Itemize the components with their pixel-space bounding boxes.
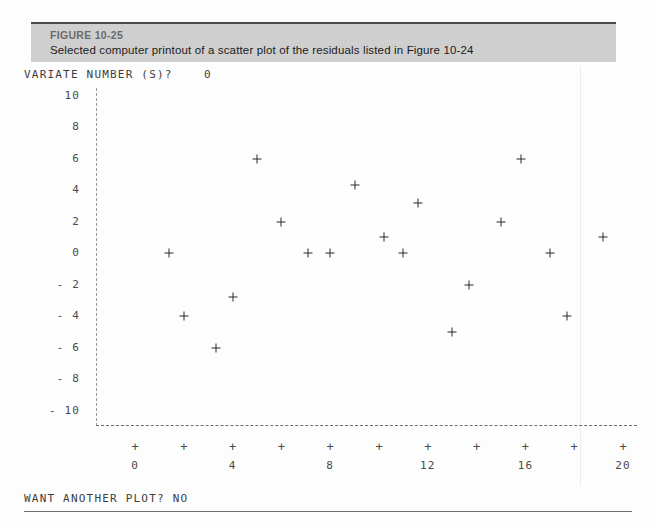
x-axis-tick-label: 16 bbox=[518, 459, 533, 472]
y-axis-tick-label: - 2 bbox=[22, 278, 80, 291]
x-axis-tick-mark: + bbox=[571, 440, 578, 454]
scatter-point bbox=[277, 217, 286, 226]
want-another-plot-prompt: WANT ANOTHER PLOT? NO bbox=[24, 492, 188, 505]
footer-divider bbox=[24, 511, 632, 512]
scatter-point bbox=[399, 249, 408, 258]
y-axis-tick-label: 0 bbox=[22, 246, 80, 259]
y-axis-tick-label: - 8 bbox=[22, 372, 80, 385]
scatter-point bbox=[448, 327, 457, 336]
x-axis-tick-mark: + bbox=[229, 440, 236, 454]
y-axis-tick-label: - 6 bbox=[22, 341, 80, 354]
y-axis-tick-label: 4 bbox=[22, 183, 80, 196]
scatter-point bbox=[414, 198, 423, 207]
x-axis-tick-label: 4 bbox=[229, 459, 237, 472]
x-axis-tick-mark: + bbox=[327, 440, 334, 454]
x-axis-tick-mark: + bbox=[522, 440, 529, 454]
scatter-point bbox=[326, 249, 335, 258]
y-axis-tick-label: 2 bbox=[22, 215, 80, 228]
scatter-plot: 1086420- 2- 4- 6- 8- 10 +++++++++++ 0481… bbox=[0, 0, 656, 526]
x-axis-tick-mark: + bbox=[278, 440, 285, 454]
scatter-point bbox=[165, 249, 174, 258]
y-axis-tick-label: - 10 bbox=[22, 404, 80, 417]
x-axis-tick-label: 12 bbox=[420, 459, 435, 472]
x-axis-tick-mark: + bbox=[473, 440, 480, 454]
scatter-point bbox=[379, 233, 388, 242]
x-axis-tick-mark: + bbox=[180, 440, 187, 454]
x-axis-tick-mark: + bbox=[375, 440, 382, 454]
scatter-point bbox=[211, 343, 220, 352]
y-axis-tick-label: 6 bbox=[22, 152, 80, 165]
x-axis-tick-label: 8 bbox=[326, 459, 334, 472]
y-axis-dashed-line bbox=[96, 88, 97, 426]
x-axis-tick-label: 0 bbox=[131, 459, 139, 472]
x-axis-tick-label: 20 bbox=[615, 459, 630, 472]
x-axis-tick-mark: + bbox=[131, 440, 138, 454]
y-axis-tick-label: - 4 bbox=[22, 309, 80, 322]
x-axis-tick-mark: + bbox=[424, 440, 431, 454]
figure-page: FIGURE 10-25 Selected computer printout … bbox=[0, 0, 656, 526]
scatter-point bbox=[497, 217, 506, 226]
scatter-point bbox=[545, 249, 554, 258]
scatter-point bbox=[179, 312, 188, 321]
scatter-point bbox=[228, 293, 237, 302]
scatter-point bbox=[304, 249, 313, 258]
scatter-point bbox=[465, 280, 474, 289]
scatter-point bbox=[350, 181, 359, 190]
scatter-point bbox=[562, 312, 571, 321]
y-axis-tick-label: 10 bbox=[22, 89, 80, 102]
x-axis-dashed-line bbox=[96, 425, 637, 426]
x-axis-tick-mark: + bbox=[619, 440, 626, 454]
scatter-point bbox=[253, 154, 262, 163]
y-axis-tick-label: 8 bbox=[22, 120, 80, 133]
scatter-point bbox=[516, 154, 525, 163]
scatter-point bbox=[599, 233, 608, 242]
